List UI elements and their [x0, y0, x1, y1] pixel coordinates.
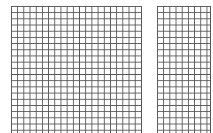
right-grid-pattern: [157, 6, 211, 133]
left-grid-pattern: [11, 6, 142, 133]
